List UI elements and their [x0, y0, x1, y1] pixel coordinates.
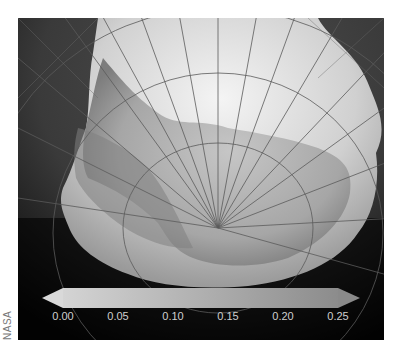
colorbar-tick: 0.00 — [52, 310, 73, 322]
colorbar-tick: 0.05 — [107, 310, 128, 322]
colorbar-tick: 0.10 — [162, 310, 183, 322]
colorbar-tick-labels: 0.00 0.05 0.10 0.15 0.20 0.25 — [0, 310, 394, 324]
colorbar-tick: 0.25 — [327, 310, 348, 322]
image-credit: NASA — [2, 311, 13, 340]
colorbar-tick: 0.20 — [272, 310, 293, 322]
colorbar — [42, 288, 360, 308]
antarctica-map — [18, 18, 384, 340]
colorbar-gradient — [63, 288, 338, 308]
colorbar-tick: 0.15 — [217, 310, 238, 322]
map-graphic — [18, 18, 384, 340]
